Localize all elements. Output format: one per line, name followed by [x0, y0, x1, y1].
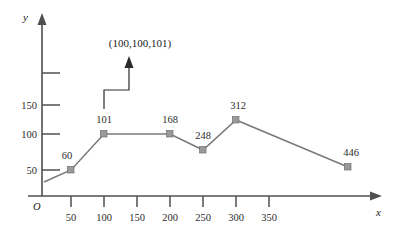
data-point-label: 248 — [195, 130, 211, 141]
data-point-marker — [345, 164, 352, 171]
origin-label: O — [33, 201, 41, 212]
data-point-label: 101 — [96, 114, 112, 125]
x-tick-label-300: 300 — [228, 212, 244, 223]
y-axis-label: y — [22, 11, 28, 23]
x-tick-label-250: 250 — [195, 212, 211, 223]
y-axis-ticks — [42, 73, 60, 170]
chart-container: 50 100 150 50 100 150 200 250 300 350 y … — [0, 0, 397, 251]
x-tick-label-150: 150 — [129, 212, 145, 223]
y-tick-label-150: 150 — [21, 100, 37, 111]
y-tick-label-100: 100 — [21, 129, 37, 140]
data-point-label: 168 — [162, 114, 178, 125]
x-axis-arrow-icon — [370, 192, 382, 201]
data-point-label: 60 — [62, 150, 73, 161]
x-tick-label-350: 350 — [261, 212, 277, 223]
x-tick-label-100: 100 — [96, 212, 112, 223]
callout-annotation-label: (100,100,101) — [109, 37, 172, 50]
data-point-marker — [101, 131, 108, 138]
x-axis-ticks — [71, 196, 269, 207]
y-axis-arrow-icon — [38, 13, 47, 25]
callout-leader-path — [104, 64, 129, 109]
callout-arrow-icon — [125, 56, 134, 68]
x-tick-label-200: 200 — [162, 212, 178, 223]
data-point-label: 312 — [230, 100, 246, 111]
data-point-marker — [68, 167, 75, 174]
data-point-marker — [167, 131, 174, 138]
y-tick-label-50: 50 — [27, 165, 38, 176]
line-chart: 50 100 150 50 100 150 200 250 300 350 y … — [0, 0, 397, 251]
data-point-marker — [233, 117, 240, 124]
x-tick-label-50: 50 — [66, 212, 77, 223]
x-axis-label: x — [375, 206, 381, 218]
data-point-marker — [200, 147, 207, 154]
data-point-label: 446 — [343, 147, 359, 158]
x-axis — [28, 192, 382, 201]
callout-leader — [104, 56, 134, 109]
